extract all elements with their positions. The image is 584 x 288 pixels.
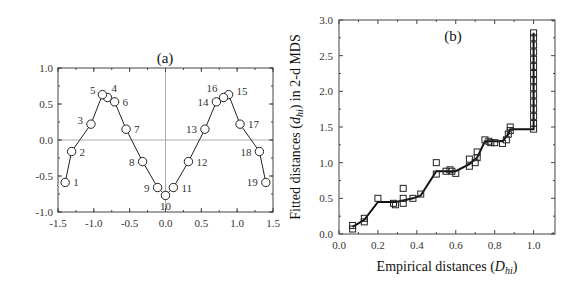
data-point xyxy=(201,125,209,133)
x-axis-label: Empirical distances (Dhi) xyxy=(377,259,518,276)
point-label: 7 xyxy=(134,123,140,135)
x-tick-label: 0.4 xyxy=(410,239,424,251)
y-tick-label: 1.0 xyxy=(319,157,333,169)
y-tick-label: 1.0 xyxy=(39,62,53,74)
data-point xyxy=(262,178,270,186)
x-tick-label: 1.0 xyxy=(527,239,541,251)
data-point xyxy=(61,178,69,186)
y-tick-label: 2.5 xyxy=(319,50,333,62)
y-tick-label: 0.0 xyxy=(39,134,53,146)
data-point xyxy=(67,147,75,155)
data-point xyxy=(219,93,227,101)
point-label: 5 xyxy=(90,84,96,96)
point-label: 8 xyxy=(129,156,135,168)
x-tick-label: 0.8 xyxy=(488,239,502,251)
data-point xyxy=(122,125,130,133)
x-tick-label: -1.5 xyxy=(49,217,67,229)
x-tick-label: -1.0 xyxy=(85,217,103,229)
data-point xyxy=(400,185,406,191)
point-label: 3 xyxy=(77,114,83,126)
data-point xyxy=(184,157,192,165)
data-point xyxy=(153,183,161,191)
regression-line xyxy=(353,33,534,227)
figure: (a) 12345678910111213141516171819 -1.5-1… xyxy=(0,0,584,288)
point-label: 19 xyxy=(247,176,259,188)
data-point xyxy=(236,120,244,128)
panel-b-title: (b) xyxy=(444,28,462,45)
data-point xyxy=(375,195,381,201)
x-tick-label: 0.5 xyxy=(194,217,208,229)
x-tick-label: 0.6 xyxy=(449,239,463,251)
y-tick-label: 0.5 xyxy=(39,98,53,110)
point-label: 16 xyxy=(207,82,219,94)
data-point xyxy=(138,157,146,165)
point-label: 6 xyxy=(123,96,129,108)
y-tick-label: 0.0 xyxy=(319,228,333,240)
panel-b-frame xyxy=(339,20,555,234)
x-tick-label: 0.0 xyxy=(159,217,173,229)
point-label: 12 xyxy=(196,156,207,168)
panel-a-chart: (a) 12345678910111213141516171819 -1.5-1… xyxy=(36,50,281,229)
x-tick-label: -0.5 xyxy=(121,217,139,229)
point-label: 9 xyxy=(144,182,150,194)
data-point xyxy=(161,191,169,199)
x-tick-label: 0.2 xyxy=(371,239,385,251)
y-tick-label: 2.0 xyxy=(319,85,333,97)
y-axis-label: Fitted distances (dhi) in 2-d MDS xyxy=(288,34,305,220)
y-tick-label: 1.5 xyxy=(319,121,333,133)
panel-a-title: (a) xyxy=(157,50,174,67)
point-label: 13 xyxy=(186,123,198,135)
point-label: 11 xyxy=(181,182,192,194)
y-tick-label: 0.5 xyxy=(319,192,333,204)
data-point xyxy=(433,160,439,166)
data-point xyxy=(255,147,263,155)
point-label: 1 xyxy=(73,176,79,188)
data-point xyxy=(110,98,118,106)
point-label: 2 xyxy=(80,146,86,158)
panel-b-chart: (b) 0.00.20.40.60.81.00.00.51.01.52.02.5… xyxy=(288,14,555,276)
x-tick-label: 1.0 xyxy=(230,217,244,229)
point-label: 18 xyxy=(240,146,252,158)
data-point xyxy=(87,120,95,128)
y-tick-label: -0.5 xyxy=(36,170,54,182)
y-tick-label: -1.0 xyxy=(36,206,54,218)
data-point xyxy=(350,226,356,232)
point-label: 14 xyxy=(197,96,209,108)
x-tick-label: 1.5 xyxy=(266,217,280,229)
data-point xyxy=(98,90,106,98)
data-point xyxy=(169,183,177,191)
point-label: 17 xyxy=(248,118,259,130)
point-label: 15 xyxy=(237,85,249,97)
data-points xyxy=(350,30,537,232)
point-label: 4 xyxy=(111,82,117,94)
y-tick-label: 3.0 xyxy=(319,14,333,26)
x-tick-label: 0.0 xyxy=(332,239,346,251)
axis-ticks: 0.00.20.40.60.81.00.00.51.01.52.02.53.0 xyxy=(319,14,555,251)
